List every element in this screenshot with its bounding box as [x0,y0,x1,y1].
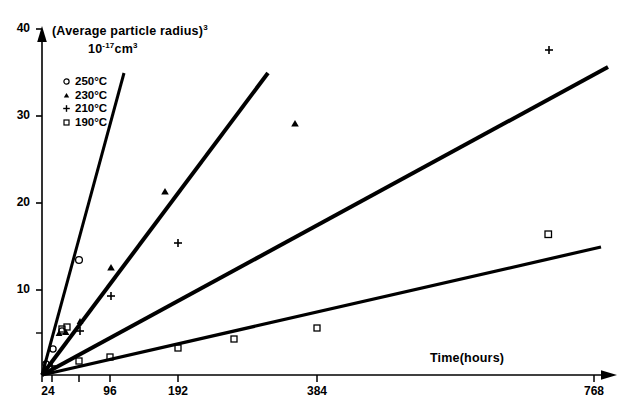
x-tick-label-96: 96 [90,384,130,398]
y-tick-label-30: 30 [4,108,30,122]
legend-item-190c: 190°C [62,116,107,130]
legend-label-230c: 230°C [75,89,107,103]
y-axis [36,26,47,375]
y-axis-units-base: 10 [88,42,102,56]
series-210c-points [48,46,553,370]
x-tick-label-24: 24 [28,384,68,398]
legend-item-210c: 210°C [62,102,107,116]
chart-figure: (Average particle radius)3 10-17cm3 250°… [0,0,630,411]
legend: 250°C 230°C 210°C 190°C [62,75,107,129]
plot-canvas [0,0,630,411]
x-axis [42,370,617,382]
x-axis-title: Time(hours) [430,351,504,365]
plus-icon [62,102,75,116]
y-axis-title-line1: (Average particle radius)3 [52,23,208,38]
y-tick-label-20: 20 [4,195,30,209]
y-axis-units-tail-exponent: 3 [133,41,138,50]
y-tick-label-40: 40 [4,21,30,35]
x-tick-label-192: 192 [158,384,198,398]
x-tick-label-384: 384 [297,384,337,398]
circle-open-icon [62,75,75,89]
legend-item-230c: 230°C [62,89,107,103]
y-axis-title-exponent: 3 [203,23,208,32]
legend-label-210c: 210°C [75,102,107,116]
x-tick-label-768: 768 [574,384,614,398]
y-tick-label-10: 10 [4,282,30,296]
square-open-icon [62,116,75,130]
y-axis-title-line2: 10-17cm3 [88,41,138,56]
triangle-filled-icon [62,89,75,103]
fit-line-210c [42,67,608,375]
legend-label-190c: 190°C [75,116,107,130]
y-axis-units-tail: cm [114,42,132,56]
legend-item-250c: 250°C [62,75,107,89]
y-axis-units-exponent: -17 [102,41,114,50]
y-axis-title-text: (Average particle radius) [52,24,203,38]
legend-label-250c: 250°C [75,75,107,89]
